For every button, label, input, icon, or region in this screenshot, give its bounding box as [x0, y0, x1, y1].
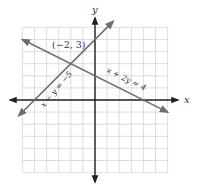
intersection-label: (−2, 3)	[52, 39, 86, 50]
coordinate-graph: y x (−2, 3) x − y = −5 x + 2y = 4	[0, 0, 199, 191]
line2-label: x + 2y = 4	[105, 66, 147, 93]
line-x-minus-y-eq-neg5	[19, 21, 113, 115]
y-axis-label: y	[91, 4, 98, 15]
x-axis-label: x	[184, 94, 190, 105]
